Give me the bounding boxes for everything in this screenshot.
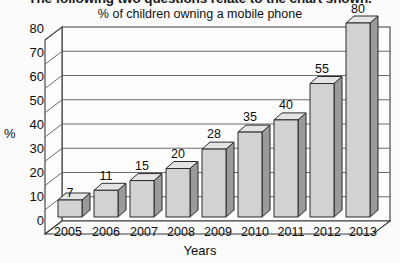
bar-2008: [166, 162, 198, 218]
value-label-2007: 15: [126, 159, 158, 173]
bar-2012: [310, 77, 342, 218]
bar-2009: [202, 142, 234, 217]
bar-2006: [94, 183, 126, 217]
chart-page: The following two questions relate to th…: [0, 0, 400, 263]
x-tick-2013: 2013: [341, 225, 385, 239]
value-label-2012: 55: [306, 62, 338, 76]
value-label-2008: 20: [162, 147, 194, 161]
bar-2010: [238, 125, 270, 217]
x-axis-label: Years: [0, 243, 400, 258]
bar-2013: [346, 16, 378, 217]
value-label-2011: 40: [270, 98, 302, 112]
bar-2007: [130, 174, 162, 217]
value-label-2013: 80: [342, 2, 374, 16]
value-label-2006: 11: [90, 169, 122, 183]
value-label-2005: 7: [54, 186, 86, 200]
value-label-2010: 35: [234, 110, 266, 124]
value-label-2009: 28: [198, 127, 230, 141]
bar-2011: [274, 113, 306, 217]
